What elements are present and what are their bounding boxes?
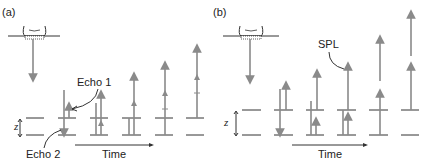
time-label-a: Time bbox=[102, 148, 126, 160]
time-step-a-1 bbox=[58, 90, 76, 135]
time-step-b-3 bbox=[337, 66, 356, 135]
echo-1-label: Echo 1 bbox=[77, 76, 111, 88]
echo-2-label: Echo 2 bbox=[26, 148, 60, 160]
time-step-b-5 bbox=[401, 14, 419, 135]
time-step-a-5 bbox=[186, 48, 204, 135]
panel-b: (b) z bbox=[213, 6, 419, 160]
time-label-b: Time bbox=[318, 148, 342, 160]
transducer-icon bbox=[8, 26, 60, 39]
depth-label-b: z bbox=[223, 116, 229, 128]
panel-label-b: (b) bbox=[213, 6, 226, 18]
time-step-a-3 bbox=[122, 76, 141, 135]
transducer-icon bbox=[223, 26, 279, 39]
time-step-b-2 bbox=[306, 73, 324, 135]
time-step-b-1 bbox=[274, 85, 293, 135]
panel-label-a: (a) bbox=[2, 6, 15, 18]
panel-a: (a) z bbox=[2, 6, 204, 160]
spl-label: SPL bbox=[318, 38, 339, 50]
time-step-b-4 bbox=[369, 39, 388, 135]
time-step-a-4 bbox=[155, 65, 173, 135]
diagram-canvas: (a) z bbox=[0, 0, 422, 163]
